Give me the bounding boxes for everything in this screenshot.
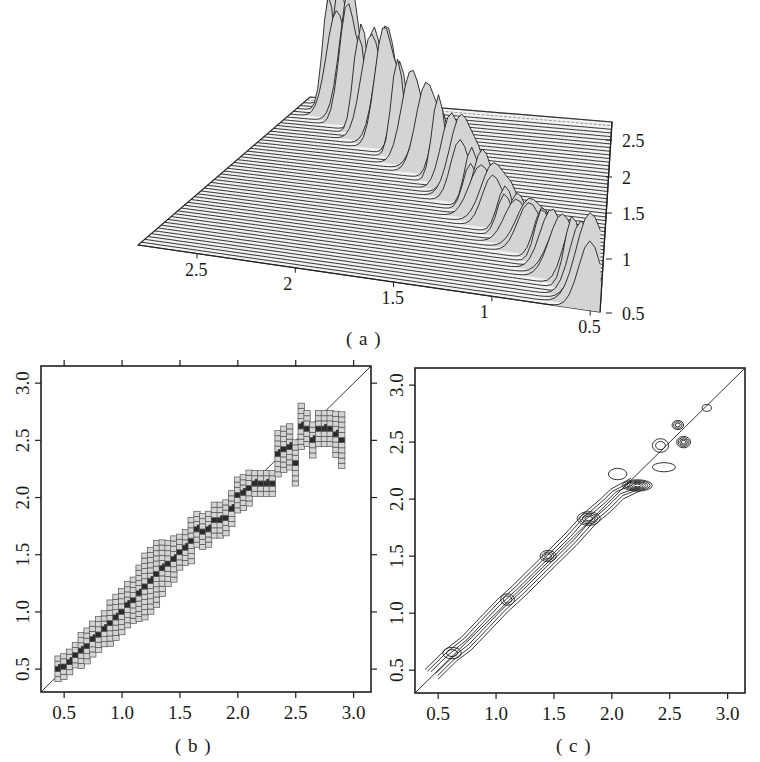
x-tick-label: 3.0 bbox=[716, 703, 740, 724]
y-tick-label: 1.5 bbox=[386, 544, 407, 568]
reference-line bbox=[415, 368, 745, 693]
x-tick-label: 1.0 bbox=[484, 703, 508, 724]
y-tick-label: 1.0 bbox=[386, 601, 407, 625]
y-tick-label: 2.5 bbox=[386, 430, 407, 454]
y-tick-label: 0.5 bbox=[386, 658, 407, 682]
y-tick-label: 3.0 bbox=[386, 373, 407, 397]
caption-b: ( b ) bbox=[175, 735, 212, 757]
chart-c-contour-plot: 0.51.01.52.02.53.00.51.01.52.02.53.0 bbox=[0, 0, 760, 740]
x-tick-label: 0.5 bbox=[426, 703, 450, 724]
x-tick-label: 2.5 bbox=[658, 703, 682, 724]
caption-c: ( c ) bbox=[556, 735, 592, 757]
y-tick-label: 2.0 bbox=[386, 487, 407, 511]
x-tick-label: 2.0 bbox=[600, 703, 624, 724]
figure: 2.521.510.52.521.510.5 0.51.01.52.02.53.… bbox=[0, 0, 760, 762]
caption-a: ( a ) bbox=[346, 328, 382, 350]
x-tick-label: 1.5 bbox=[542, 703, 566, 724]
